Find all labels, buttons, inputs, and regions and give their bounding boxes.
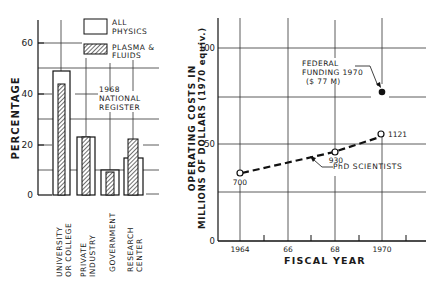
right-xtick-1964: 1964 [230,245,249,254]
left-ytick-60: 60 [22,38,34,48]
right-ytick-0: 0 [210,236,215,246]
federal-label-1: FEDERAL [302,59,339,68]
bar-private-plasma [82,137,90,195]
legend-swatch-plasma [84,44,107,54]
phd-label-700: 700 [233,178,248,187]
left-category-labels: UNIVERSITY OR COLLEGE PRIVATE INDUSTRY G… [55,212,144,277]
left-y-ticks [38,43,44,145]
cat-private-2: INDUSTRY [88,234,97,277]
legend-label-all-1: ALL [112,18,127,27]
note-line-2: NATIONAL [99,94,141,103]
right-x-axis-label: FISCAL YEAR [284,255,366,266]
cat-research-2: CENTER [135,238,144,272]
federal-funding-point [379,89,386,96]
cat-university-2: OR COLLEGE [64,223,73,277]
note-line-1: 1968 [99,85,120,94]
right-line-chart: 0 50 100 1964 66 68 1970 FISCAL YEAR OPE… [187,18,426,266]
legend-label-plasma-2: FLUIDS [112,51,141,60]
left-ytick-40: 40 [22,89,34,99]
left-y-axis-label: PERCENTAGE [10,76,21,159]
right-xtick-1970: 1970 [372,245,391,254]
left-ytick-0: 0 [27,190,33,200]
note-line-3: REGISTER [99,103,140,112]
legend-label-all-2: PHYSICS [112,27,147,36]
left-legend: ALL PHYSICS PLASMA & FLUIDS [84,18,155,60]
bar-government-plasma [106,172,114,195]
right-xtick-68: 68 [330,245,340,254]
phd-label-1121: 1121 [388,130,407,139]
right-y-axis-label-1: OPERATING COSTS IN [187,65,197,192]
left-bar-chart: 0 20 40 60 PERCENTAGE ALL PHYSICS PLASMA… [10,18,159,277]
cat-government: GOVERNMENT [108,212,117,272]
federal-label-2: FUNDING 1970 [302,68,363,77]
right-xtick-66: 66 [283,245,293,254]
bar-university-plasma [58,84,65,195]
federal-label-3: ($ 77 M) [306,77,341,86]
phd-point-1968 [332,149,338,155]
cat-private-1: PRIVATE [79,242,88,277]
figure: 0 20 40 60 PERCENTAGE ALL PHYSICS PLASMA… [0,0,439,284]
left-ytick-20: 20 [22,140,34,150]
right-y-axis-label-2: MILLIONS OF DOLLARS (1970 equiv.) [197,27,207,229]
legend-swatch-all-physics [84,19,107,34]
phd-scientists-label: PhD SCIENTISTS [333,162,402,171]
phd-point-1970 [378,131,384,137]
cat-university-1: UNIVERSITY [55,226,64,277]
phd-point-1964 [237,170,243,176]
bar-research-plasma [128,139,138,195]
cat-research-1: RESEARCH [126,227,135,272]
